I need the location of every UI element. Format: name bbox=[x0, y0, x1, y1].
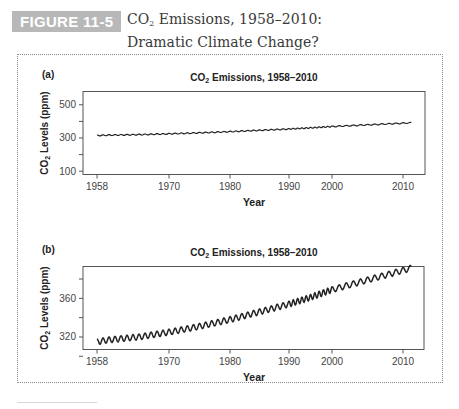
x-tick-label: 1980 bbox=[219, 181, 242, 192]
x-tick-label: 1958 bbox=[86, 181, 109, 192]
caption-fragment bbox=[17, 402, 97, 406]
y-axis-b: 320360 bbox=[59, 279, 83, 356]
x-tick-label: 1958 bbox=[86, 356, 109, 367]
y-tick-label: 500 bbox=[59, 99, 76, 110]
chart-title-b: CO2 Emissions, 1958–2010 bbox=[190, 247, 318, 259]
data-line-b bbox=[97, 266, 411, 345]
y-axis-title-b: CO2 Levels (ppm) bbox=[39, 266, 51, 349]
panel-label-b: (b) bbox=[42, 244, 55, 255]
chart-title-a: CO2 Emissions, 1958–2010 bbox=[190, 72, 318, 84]
x-tick-label: 1980 bbox=[219, 356, 242, 367]
y-tick-label: 320 bbox=[59, 331, 76, 342]
x-tick-label: 2000 bbox=[321, 181, 344, 192]
y-axis-title-a: CO2 Levels (ppm) bbox=[39, 91, 51, 174]
x-tick-label: 1990 bbox=[278, 356, 301, 367]
x-tick-label: 2010 bbox=[392, 356, 415, 367]
x-axis-a: 195819701980199020002010 bbox=[86, 175, 415, 192]
x-tick-label: 1970 bbox=[158, 356, 181, 367]
y-axis-a: 100300500 bbox=[59, 99, 83, 176]
x-axis-title-a: Year bbox=[243, 196, 265, 208]
x-tick-label: 1970 bbox=[158, 181, 181, 192]
data-line-a bbox=[97, 122, 411, 135]
chart-panel-b: (b) CO2 Emissions, 1958–2010 320360 1958… bbox=[39, 244, 424, 383]
x-tick-label: 1990 bbox=[278, 181, 301, 192]
chart-panel-a: (a) CO2 Emissions, 1958–2010 100300500 1… bbox=[39, 69, 425, 208]
x-tick-label: 2010 bbox=[392, 181, 415, 192]
y-tick-label: 100 bbox=[59, 166, 76, 177]
x-tick-label: 2000 bbox=[321, 356, 344, 367]
x-axis-b: 195819701980199020002010 bbox=[86, 350, 415, 367]
y-tick-label: 300 bbox=[59, 132, 76, 143]
plot-frame-a bbox=[83, 92, 425, 175]
charts-canvas: (a) CO2 Emissions, 1958–2010 100300500 1… bbox=[0, 0, 459, 409]
x-axis-title-b: Year bbox=[243, 371, 265, 383]
panel-label-a: (a) bbox=[42, 69, 54, 80]
y-tick-label: 360 bbox=[59, 293, 76, 304]
